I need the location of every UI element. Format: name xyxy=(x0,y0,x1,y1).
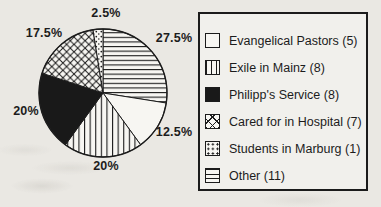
legend-item-label: Evangelical Pastors (5) xyxy=(229,34,358,48)
swatch-dots-icon xyxy=(205,141,220,156)
legend-item-students-in-marburg: Students in Marburg (1) xyxy=(200,135,366,162)
swatch-vertical-lines-icon xyxy=(205,60,220,75)
legend-item-cared-for-in-hospital: Cared for in Hospital (7) xyxy=(200,108,366,135)
swatch-white-icon xyxy=(205,33,220,48)
slice-label-cared-for-in-hospital: 17.5% xyxy=(26,26,62,40)
legend-item-label: Exile in Mainz (8) xyxy=(229,61,325,75)
slice-label-other: 27.5% xyxy=(156,31,192,45)
legend-item-label: Other (11) xyxy=(229,169,285,183)
legend-item-evangelical-pastors: Evangelical Pastors (5) xyxy=(200,27,366,54)
swatch-black-icon xyxy=(205,87,220,102)
slice-label-students-in-marburg: 2.5% xyxy=(91,6,120,20)
slice-label-evangelical-pastors: 12.5% xyxy=(156,125,192,139)
legend-item-label: Cared for in Hospital (7) xyxy=(229,115,362,129)
legend-item-other: Other (11) xyxy=(200,162,366,189)
swatch-crosshatch-icon xyxy=(205,114,220,129)
legend: Evangelical Pastors (5) Exile in Mainz (… xyxy=(198,12,368,191)
legend-item-label: Students in Marburg (1) xyxy=(229,142,360,156)
slice-label-exile-in-mainz: 20% xyxy=(93,159,119,173)
pie-chart: 2.5% 27.5% 17.5% 20% 20% 12.5% xyxy=(0,0,200,207)
slice-label-philipps-service: 20% xyxy=(13,104,39,118)
swatch-horizontal-lines-icon xyxy=(205,168,220,183)
pie-chart-figure: 2.5% 27.5% 17.5% 20% 20% 12.5% Evangelic… xyxy=(0,0,381,207)
legend-item-exile-in-mainz: Exile in Mainz (8) xyxy=(200,54,366,81)
legend-item-label: Philipp's Service (8) xyxy=(229,88,339,102)
legend-item-philipps-service: Philipp's Service (8) xyxy=(200,81,366,108)
